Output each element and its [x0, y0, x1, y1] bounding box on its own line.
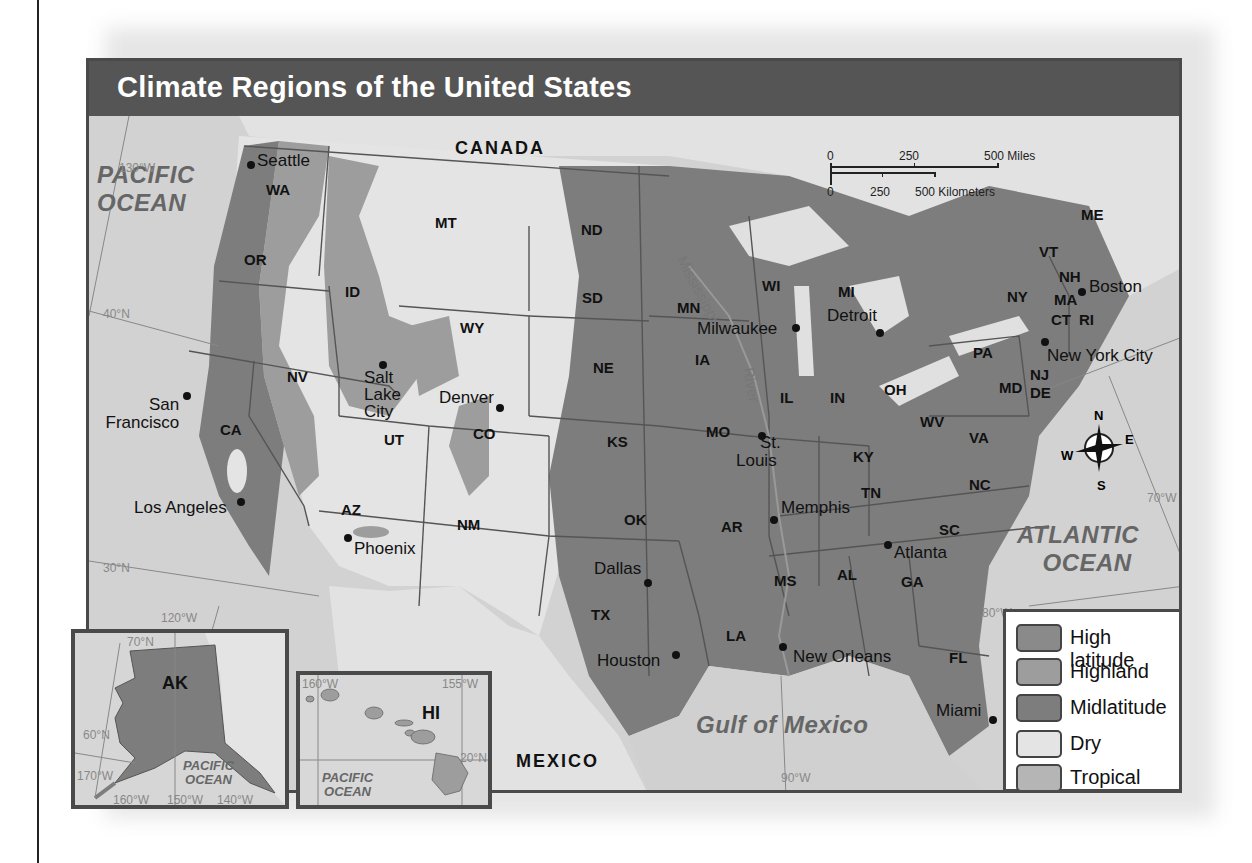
state-label-vt: VT	[1039, 243, 1058, 260]
coord-30n: 30°N	[103, 561, 130, 575]
city-label-detroit: Detroit	[827, 306, 877, 326]
state-label-ky: KY	[853, 448, 874, 465]
inset-alaska: AK PACIFICOCEAN 70°N 60°N 170°W 160°W 15…	[71, 629, 289, 809]
city-label-new-york-city: New York City	[1047, 346, 1153, 366]
state-label-tn: TN	[861, 484, 881, 501]
svg-text:W: W	[1061, 448, 1074, 463]
coord-120w: 120°W	[161, 611, 197, 625]
city-label-salt-lake-city: SaltLakeCity	[364, 369, 401, 420]
city-dot-new-york-city	[1041, 338, 1049, 346]
state-label-in: IN	[830, 389, 845, 406]
city-dot-detroit	[876, 329, 884, 337]
state-label-mo: MO	[706, 423, 730, 440]
state-label-nd: ND	[581, 221, 603, 238]
coord-90w: 90°W	[781, 771, 810, 785]
city-label-memphis: Memphis	[781, 498, 850, 518]
state-label-ny: NY	[1007, 288, 1028, 305]
ocean-label-atlantic: ATLANTICOCEAN	[1017, 521, 1139, 577]
state-label-nv: NV	[287, 368, 308, 385]
city-dot-los-angeles	[237, 498, 245, 506]
state-label-ms: MS	[774, 572, 797, 589]
state-label-de: DE	[1030, 384, 1051, 401]
state-label-va: VA	[969, 429, 989, 446]
legend-swatch	[1016, 730, 1062, 758]
state-label-mt: MT	[435, 214, 457, 231]
coord-hi-20n: 20°N	[460, 751, 487, 765]
legend-swatch	[1016, 764, 1062, 792]
svg-text:S: S	[1097, 478, 1106, 493]
city-label-denver: Denver	[439, 388, 494, 408]
city-label-houston: Houston	[597, 651, 660, 671]
state-label-wa: WA	[266, 181, 290, 198]
svg-text:N: N	[1094, 408, 1103, 423]
city-label-atlanta: Atlanta	[894, 543, 947, 563]
country-label-canada: CANADA	[455, 138, 545, 159]
state-label-ks: KS	[607, 433, 628, 450]
page-margin-rule	[37, 0, 39, 863]
state-label-me: ME	[1081, 206, 1104, 223]
compass-icon: N E W S	[1059, 406, 1139, 496]
state-label-ar: AR	[721, 518, 743, 535]
city-label-los-angeles: Los Angeles	[134, 498, 227, 518]
ocean-label-gulf-of-mexico: Gulf of Mexico	[696, 711, 868, 739]
state-label-pa: PA	[973, 344, 993, 361]
state-label-or: OR	[244, 251, 267, 268]
state-label-mn: MN	[677, 299, 700, 316]
scale-bar: 0 250 500 Miles 0 250 500 Kilometers	[827, 149, 1057, 209]
city-dot-atlanta	[884, 541, 892, 549]
map-legend: High latitude Highland Midlatitude Dry T…	[1003, 609, 1182, 792]
coord-130w: 130°W	[119, 161, 155, 175]
title-bar: Climate Regions of the United States	[89, 61, 1179, 116]
city-dot-milwaukee	[792, 324, 800, 332]
coord-40n: 40°N	[103, 307, 130, 321]
city-label-dallas: Dallas	[594, 559, 641, 579]
state-label-ak: AK	[162, 673, 188, 694]
coord-ak-140w: 140°W	[217, 793, 253, 807]
map-title: Climate Regions of the United States	[117, 71, 632, 104]
city-label-phoenix: Phoenix	[354, 539, 415, 559]
state-label-nm: NM	[457, 516, 480, 533]
state-label-sd: SD	[582, 289, 603, 306]
city-label-seattle: Seattle	[257, 151, 310, 171]
state-label-mi: MI	[838, 283, 855, 300]
coord-hi-155w: 155°W	[442, 677, 478, 691]
state-label-nj: NJ	[1030, 366, 1049, 383]
city-label-st-louis: St.Louis	[736, 434, 781, 470]
state-label-wv: WV	[920, 413, 944, 430]
coord-ak-60n: 60°N	[83, 728, 110, 742]
state-label-ok: OK	[624, 511, 647, 528]
state-label-la: LA	[726, 627, 746, 644]
coord-ak-150w: 150°W	[167, 793, 203, 807]
city-dot-miami	[989, 716, 997, 724]
legend-swatch	[1016, 694, 1062, 722]
state-label-id: ID	[345, 283, 360, 300]
state-label-co: CO	[473, 425, 496, 442]
coord-hi-160w: 160°W	[302, 677, 338, 691]
state-label-nc: NC	[969, 476, 991, 493]
state-label-ut: UT	[384, 431, 404, 448]
state-label-il: IL	[780, 389, 793, 406]
coord-70w: 70°W	[1147, 491, 1176, 505]
state-label-al: AL	[837, 566, 857, 583]
city-dot-houston	[672, 651, 680, 659]
state-label-ri: RI	[1079, 311, 1094, 328]
coord-ak-70n: 70°N	[127, 635, 154, 649]
ocean-label-pacific-ak: PACIFICOCEAN	[183, 759, 234, 787]
city-label-san-francisco: SanFrancisco	[99, 396, 179, 432]
city-dot-denver	[496, 404, 504, 412]
state-label-ne: NE	[593, 359, 614, 376]
state-label-ca: CA	[220, 421, 242, 438]
city-dot-new-orleans	[779, 643, 787, 651]
city-dot-dallas	[644, 579, 652, 587]
state-label-ga: GA	[901, 573, 924, 590]
country-label-mexico: MEXICO	[516, 751, 599, 772]
coord-ak-160w: 160°W	[113, 793, 149, 807]
state-label-tx: TX	[591, 606, 610, 623]
state-label-oh: OH	[884, 381, 907, 398]
ocean-label-pacific-hi: PACIFICOCEAN	[322, 771, 373, 799]
state-label-nh: NH	[1059, 268, 1081, 285]
inset-hawaii: HI PACIFICOCEAN 160°W 155°W 20°N	[296, 671, 492, 809]
state-label-ma: MA	[1054, 291, 1077, 308]
state-label-az: AZ	[341, 501, 361, 518]
legend-swatch	[1016, 658, 1062, 686]
